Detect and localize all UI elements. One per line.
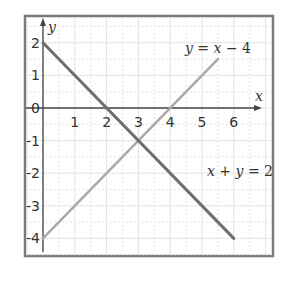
y-axis-label: y [47,19,57,35]
line-chart: xy 123456210-1-2-3-4 x + y = 2y = x − 4 [0,0,289,281]
equation-label: x + y = 2 [207,163,273,179]
y-tick-label: -4 [26,230,40,246]
x-tick-label: 3 [134,114,143,130]
y-tick-label: -2 [26,165,40,181]
x-tick-label: 6 [229,114,238,130]
y-tick-label: 2 [31,35,40,51]
x-tick-label: 5 [198,114,207,130]
x-tick-label: 4 [166,114,175,130]
y-tick-label: 1 [31,67,40,83]
equation-label: y = x − 4 [184,40,251,56]
x-axis-label: x [255,88,263,104]
x-tick-label: 1 [70,114,79,130]
y-tick-label: -3 [26,198,40,214]
y-tick-label: -1 [26,133,40,149]
x-tick-label: 2 [102,114,111,130]
y-tick-label: 0 [31,100,40,116]
